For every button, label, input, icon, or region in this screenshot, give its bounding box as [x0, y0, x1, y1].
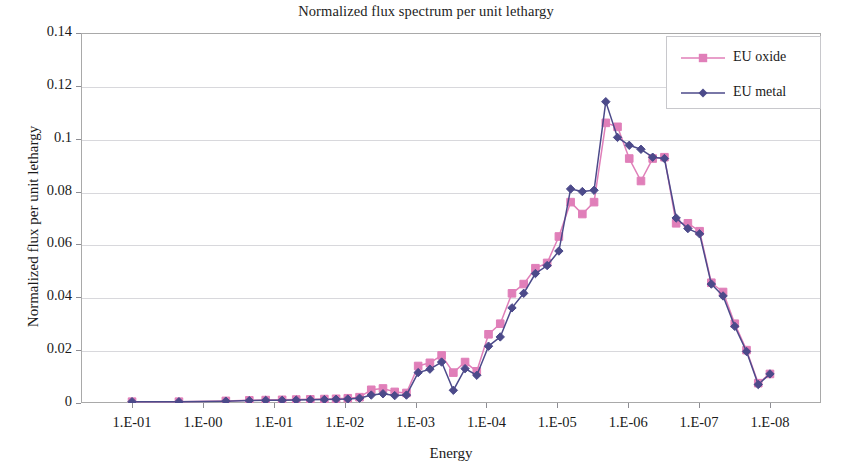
legend-swatch	[679, 78, 727, 108]
x-tick-mark	[203, 403, 204, 408]
x-tick-label: 1.E-01	[92, 414, 172, 431]
x-tick-label: 1.E-07	[659, 414, 739, 431]
x-tick-label: 1.E-01	[234, 414, 314, 431]
x-tick-mark	[416, 403, 417, 408]
y-tick-mark	[76, 350, 81, 351]
y-tick-mark	[76, 86, 81, 87]
legend-label: EU metal	[733, 84, 786, 100]
chart-title: Normalized flux spectrum per unit lethar…	[0, 3, 852, 20]
y-tick-mark	[76, 403, 81, 404]
x-tick-mark	[699, 403, 700, 408]
x-axis-title: Energy	[81, 445, 821, 462]
y-tick-mark	[76, 297, 81, 298]
x-tick-label: 1.E-04	[446, 414, 526, 431]
y-tick-mark	[76, 192, 81, 193]
legend: EU oxideEU metal	[666, 36, 821, 109]
x-tick-mark	[628, 403, 629, 408]
x-tick-label: 1.E-02	[305, 414, 385, 431]
y-tick-label: 0.14	[6, 23, 72, 40]
x-tick-label: 1.E-05	[517, 414, 597, 431]
gridline	[82, 351, 820, 352]
x-tick-mark	[132, 403, 133, 408]
y-tick-mark	[76, 244, 81, 245]
y-tick-mark	[76, 33, 81, 34]
x-tick-mark	[486, 403, 487, 408]
x-tick-mark	[557, 403, 558, 408]
x-tick-mark	[770, 403, 771, 408]
y-axis-title: Normalized flux per unit lethargy	[25, 72, 42, 382]
legend-label: EU oxide	[733, 49, 786, 65]
x-tick-label: 1.E-08	[730, 414, 810, 431]
x-tick-mark	[274, 403, 275, 408]
legend-item-eu-metal[interactable]: EU metal	[667, 78, 820, 108]
legend-item-eu-oxide[interactable]: EU oxide	[667, 43, 820, 73]
x-tick-label: 1.E-00	[163, 414, 243, 431]
gridline	[82, 193, 820, 194]
x-tick-label: 1.E-03	[376, 414, 456, 431]
y-tick-label: 0	[6, 393, 72, 410]
gridline	[82, 298, 820, 299]
gridline	[82, 245, 820, 246]
y-tick-mark	[76, 139, 81, 140]
chart-container: Normalized flux spectrum per unit lethar…	[0, 0, 852, 470]
x-tick-label: 1.E-06	[588, 414, 668, 431]
legend-swatch	[679, 43, 727, 73]
x-tick-mark	[345, 403, 346, 408]
gridline	[82, 140, 820, 141]
